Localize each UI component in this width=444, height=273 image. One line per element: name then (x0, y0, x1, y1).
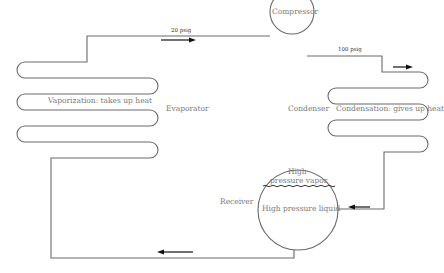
arrow-right-icon (161, 38, 196, 43)
liquid-surface (263, 185, 335, 187)
evaporator-coil (17, 36, 294, 258)
receiver-label: Receiver (220, 198, 253, 206)
discharge-pressure-label: 100 psig (338, 47, 362, 53)
evaporator-label: Evaporator (166, 105, 209, 113)
vapor-label-line1: High (288, 168, 307, 176)
compressor-label: Compressor (272, 8, 318, 16)
condensation-label: Condensation: gives up heat (336, 105, 444, 113)
condenser-coil (307, 56, 428, 209)
arrow-left-icon (157, 250, 193, 255)
liquid-label: High pressure liquid (262, 205, 340, 213)
arrow-right-icon (393, 65, 413, 70)
vaporization-label: Vaporization: takes up heat (48, 97, 152, 105)
compressor-circle (270, 0, 314, 34)
condenser-label: Condenser (288, 105, 329, 113)
suction-pressure-label: 20 psig (171, 28, 191, 34)
vapor-label-line2: pressure vapor (270, 177, 327, 185)
